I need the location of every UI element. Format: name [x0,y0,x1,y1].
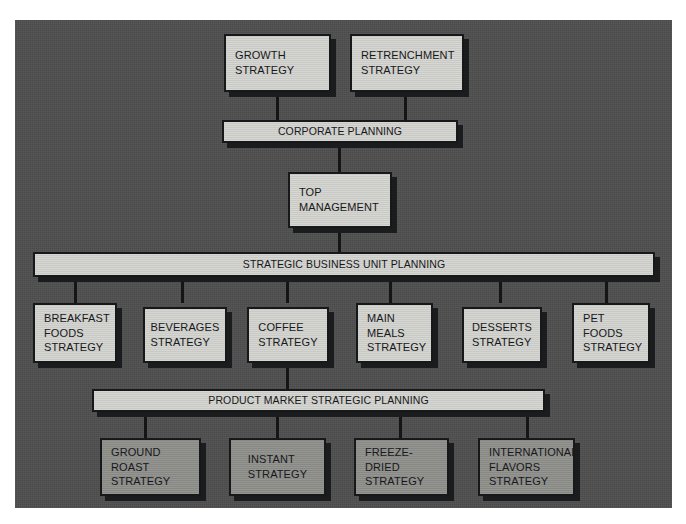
node-sbu-planning-label: STRATEGIC BUSINESS UNIT PLANNING [243,258,445,272]
node-main-meals-strategy[interactable]: MAIN MEALS STRATEGY [356,303,433,363]
connector-sbu-pet-foods [605,277,608,303]
connector-sbu-coffee [286,277,289,303]
node-coffee-strategy-label: COFFEE STRATEGY [258,320,317,349]
node-ground-roast-strategy-label: GROUND ROAST STRATEGY [111,445,170,489]
connector-pm-instant [276,412,279,438]
connector-top-management-down [338,228,341,252]
connector-sbu-beverages [181,277,184,303]
node-ground-roast-strategy[interactable]: GROUND ROAST STRATEGY [100,438,201,496]
connector-retrenchment-down [404,92,407,121]
node-retrenchment-strategy[interactable]: RETRENCHMENT STRATEGY [350,34,464,92]
node-corporate-planning-label: CORPORATE PLANNING [278,125,402,139]
node-international-flavors-strategy[interactable]: INTERNATIONAL FLAVORS STRATEGY [478,438,575,496]
connector-pm-international [526,412,529,438]
node-product-market-planning-label: PRODUCT MARKET STRATEGIC PLANNING [208,394,428,408]
node-instant-strategy-label: INSTANT STRATEGY [248,452,307,481]
node-top-management[interactable]: TOP MANAGEMENT [288,172,392,228]
node-pet-foods-strategy[interactable]: PET FOODS STRATEGY [572,303,650,363]
node-coffee-strategy[interactable]: COFFEE STRATEGY [247,307,329,363]
node-freeze-dried-strategy[interactable]: FREEZE- DRIED STRATEGY [354,438,449,496]
node-international-flavors-strategy-label: INTERNATIONAL FLAVORS STRATEGY [489,445,578,489]
node-retrenchment-strategy-label: RETRENCHMENT STRATEGY [361,48,454,77]
connector-sbu-main-meals [389,277,392,303]
node-main-meals-strategy-label: MAIN MEALS STRATEGY [367,311,426,355]
node-growth-strategy-label: GROWTH STRATEGY [235,48,294,77]
node-top-management-label: TOP MANAGEMENT [299,185,379,214]
node-desserts-strategy-label: DESSERTS STRATEGY [472,320,532,349]
connector-sbu-desserts [499,277,502,303]
connector-pm-freeze-dried [399,412,402,438]
connector-sbu-breakfast [74,277,77,303]
node-instant-strategy[interactable]: INSTANT STRATEGY [229,438,326,496]
node-breakfast-foods-strategy-label: BREAKFAST FOODS STRATEGY [44,311,110,355]
node-desserts-strategy[interactable]: DESSERTS STRATEGY [462,307,542,363]
node-sbu-planning[interactable]: STRATEGIC BUSINESS UNIT PLANNING [33,252,655,277]
node-corporate-planning[interactable]: CORPORATE PLANNING [222,120,458,143]
node-breakfast-foods-strategy[interactable]: BREAKFAST FOODS STRATEGY [33,303,117,363]
node-beverages-strategy[interactable]: BEVERAGES STRATEGY [143,307,227,363]
connector-corporate-planning-down [338,143,341,173]
connector-coffee-down [286,363,289,389]
diagram-canvas: GROWTH STRATEGY RETRENCHMENT STRATEGY CO… [0,0,686,524]
connector-growth-down [276,92,279,121]
connector-pm-ground-roast [144,412,147,438]
node-freeze-dried-strategy-label: FREEZE- DRIED STRATEGY [365,445,424,489]
node-beverages-strategy-label: BEVERAGES STRATEGY [151,320,220,349]
node-product-market-planning[interactable]: PRODUCT MARKET STRATEGIC PLANNING [92,389,545,412]
node-pet-foods-strategy-label: PET FOODS STRATEGY [583,311,642,355]
node-growth-strategy[interactable]: GROWTH STRATEGY [224,34,331,92]
